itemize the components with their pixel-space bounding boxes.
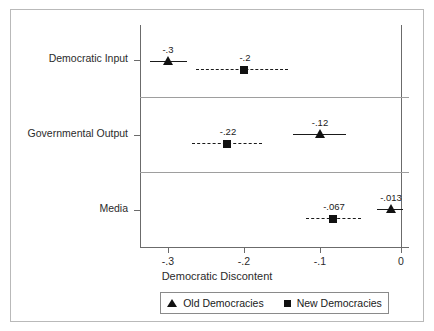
band-separator-1 <box>140 97 409 98</box>
square-marker-media-new <box>329 215 337 223</box>
x-tick-label-4: 0 <box>398 255 404 267</box>
legend-item-new-democracies: New Democracies <box>284 297 382 309</box>
x-axis-line <box>140 247 409 248</box>
y-axis-line <box>140 25 141 247</box>
x-tick-mark-4 <box>401 247 402 253</box>
band-separator-2 <box>140 172 409 173</box>
point-label-output-old: -.12 <box>312 117 328 128</box>
point-label-media-new: -.067 <box>323 201 345 212</box>
triangle-marker-media-old <box>386 204 396 213</box>
y-label-text: Democratic Input <box>49 52 128 64</box>
y-label-text: Governmental Output <box>28 127 128 139</box>
triangle-marker-output-old <box>315 129 325 138</box>
x-tick-mark-3 <box>320 247 321 253</box>
y-tick-governmental-output <box>134 135 141 136</box>
point-label-media-old: -.013 <box>380 192 402 203</box>
y-tick-democratic-input <box>134 60 141 61</box>
x-tick-mark-1 <box>168 247 169 253</box>
x-tick-mark-2 <box>244 247 245 253</box>
x-tick-label-2: -.2 <box>238 255 250 267</box>
square-marker-output-new <box>223 140 231 148</box>
point-label-input-old: -.3 <box>162 44 173 55</box>
x-tick-label-3: -.1 <box>314 255 326 267</box>
zero-reference-line <box>401 25 402 247</box>
square-marker-input-new <box>240 66 248 74</box>
triangle-marker-input-old <box>163 56 173 65</box>
triangle-marker-icon <box>167 299 177 307</box>
y-label-text: Media <box>99 202 128 214</box>
point-label-output-new: -.22 <box>220 126 236 137</box>
legend-item-old-democracies: Old Democracies <box>167 297 264 309</box>
square-marker-icon <box>284 300 291 307</box>
y-tick-media <box>134 210 141 211</box>
chart-legend: Old Democracies New Democracies <box>160 292 389 314</box>
legend-label-old: Old Democracies <box>183 297 264 309</box>
point-label-input-new: -.2 <box>239 52 250 63</box>
figure-canvas: Democratic Input Governmental Output Med… <box>0 0 434 331</box>
x-tick-label-1: -.3 <box>162 255 174 267</box>
x-axis-title: Democratic Discontent <box>0 270 434 282</box>
legend-label-new: New Democracies <box>297 297 382 309</box>
